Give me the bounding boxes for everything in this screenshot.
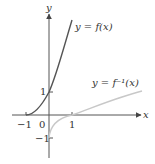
curve-f-label: y = f(x) bbox=[74, 21, 113, 32]
x-tick-label-1: 1 bbox=[69, 119, 75, 130]
y-tick-label-1: 1 bbox=[40, 86, 46, 97]
inverse-function-graph: y x −1 0 1 1 −1 y = f(x) y = f⁻¹(x) bbox=[0, 0, 155, 164]
curve-f-inverse-label: y = f⁻¹(x) bbox=[91, 77, 139, 88]
graph-canvas: y x −1 0 1 1 −1 y = f(x) y = f⁻¹(x) bbox=[0, 0, 155, 164]
x-tick-label-neg1: −1 bbox=[17, 119, 32, 130]
y-axis-label: y bbox=[45, 2, 52, 13]
origin-label: 0 bbox=[39, 119, 45, 130]
y-tick-label-neg1: −1 bbox=[35, 133, 50, 144]
x-axis-label: x bbox=[143, 109, 149, 120]
